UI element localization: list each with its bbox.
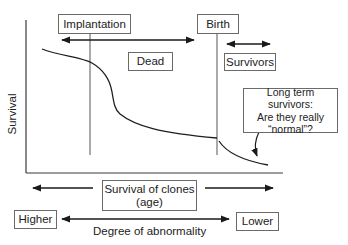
y-axis-label: Survival [6,92,18,136]
degree-of-abnormality-label: Degree of abnormality [93,225,206,237]
survivors-box: Survivors [224,53,276,71]
survival-of-clones-label: Survival of clones [104,183,194,196]
callout-line-1: Long term survivors: [244,86,337,111]
callout-line-3: “normal”? [268,123,313,136]
birth-box: Birth [197,14,239,34]
survival-of-clones-box: Survival of clones (age) [102,180,197,211]
callout-line-2: Are they really [257,111,324,124]
survival-curve-postnatal [219,141,268,165]
age-label: (age) [136,196,163,209]
callout-pointer-arrow [255,132,259,156]
dead-box: Dead [128,52,173,71]
long-term-survivors-callout: Long term survivors: Are they really “no… [243,88,338,133]
implantation-box: Implantation [58,14,131,34]
lower-box: Lower [236,212,279,231]
higher-box: Higher [14,210,57,229]
